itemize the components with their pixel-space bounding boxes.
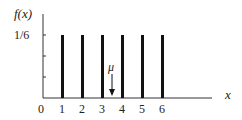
chart: μ f(x) 1/6 x 0 1 2 3 4 5 6 — [0, 0, 242, 120]
x-tick-label-3: 3 — [99, 102, 105, 116]
x-tick-label-4: 4 — [119, 102, 125, 116]
bar-1 — [61, 35, 64, 98]
x-tick-label-1: 1 — [59, 102, 65, 116]
x-tick-label-5: 5 — [139, 102, 145, 116]
mu-arrow-head-icon — [109, 89, 115, 96]
y-tick-label: 1/6 — [14, 28, 29, 42]
y-axis-label: f(x) — [14, 6, 32, 21]
bar-3 — [101, 35, 104, 98]
mu-label: μ — [107, 60, 114, 74]
bar-2 — [81, 35, 84, 98]
x-axis-label: x — [224, 87, 231, 102]
x-tick-label-0: 0 — [38, 102, 44, 116]
bar-4 — [121, 35, 124, 98]
x-tick-label-2: 2 — [79, 102, 85, 116]
bar-6 — [161, 35, 164, 98]
x-tick-label-6: 6 — [159, 102, 165, 116]
bar-5 — [141, 35, 144, 98]
